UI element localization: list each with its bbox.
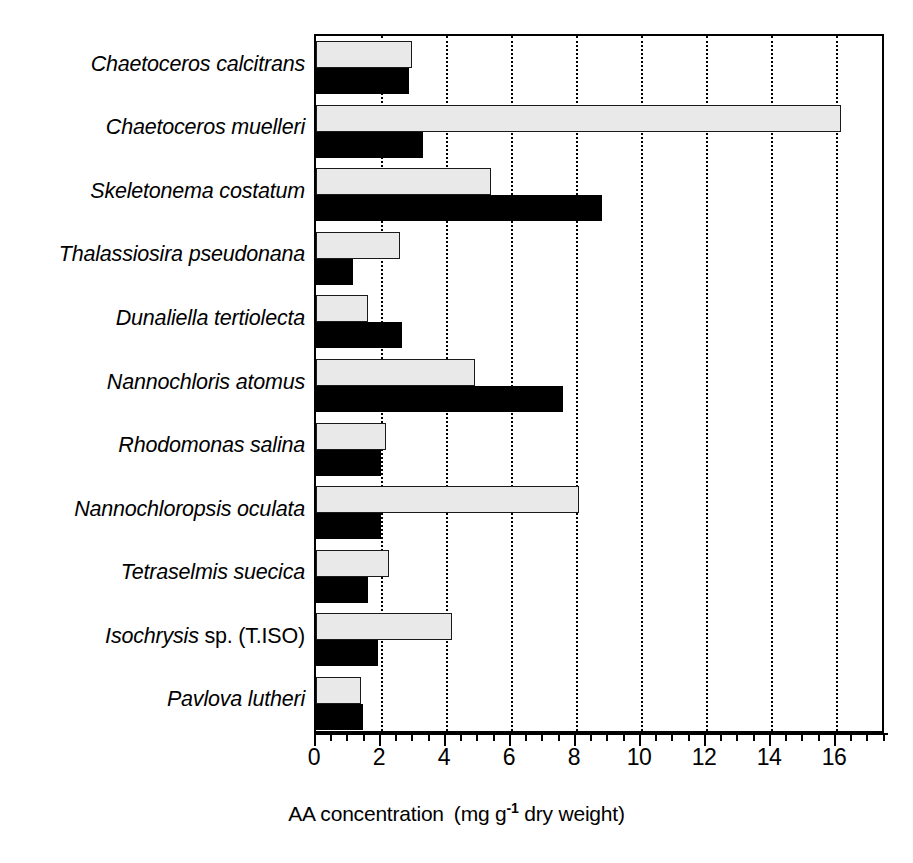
x-tick-label: 16 xyxy=(804,744,864,771)
bar-black xyxy=(316,68,409,94)
category-label: Rhodomonas salina xyxy=(0,433,305,458)
x-tick-minor xyxy=(736,735,738,741)
bar-black xyxy=(316,640,378,666)
category-label: Pavlova lutheri xyxy=(0,687,305,712)
category-label: Chaetoceros muelleri xyxy=(0,115,305,140)
bar-group xyxy=(316,168,882,221)
category-label: Chaetoceros calcitrans xyxy=(0,52,305,77)
bar-gray xyxy=(316,105,841,132)
x-tick-minor xyxy=(688,735,690,741)
x-tick-label: 12 xyxy=(674,744,734,771)
category-label-genus-species: Pavlova lutheri xyxy=(167,687,305,711)
axis-title-exponent: -1 xyxy=(507,800,519,816)
bar-group xyxy=(316,423,882,476)
bar-gray xyxy=(316,486,579,513)
category-label-qualifier: sp. (T.ISO) xyxy=(199,624,305,648)
x-tick-minor xyxy=(395,735,397,741)
bar-black xyxy=(316,577,368,603)
axis-title-main: AA concentration xyxy=(288,802,444,825)
bar-group xyxy=(316,295,882,348)
category-label-genus-species: Isochrysis xyxy=(105,624,199,648)
x-tick-minor xyxy=(363,735,365,741)
category-label: Isochrysis sp. (T.ISO) xyxy=(0,624,305,649)
axis-title-paren-open: (mg g xyxy=(454,802,507,825)
bar-gray xyxy=(316,168,491,195)
category-label: Nannochloris atomus xyxy=(0,370,305,395)
x-tick-minor xyxy=(428,735,430,741)
category-label-genus-species: Tetraselmis suecica xyxy=(121,560,305,584)
x-tick-minor xyxy=(411,735,413,741)
bar-gray xyxy=(316,232,400,259)
x-tick-label: 8 xyxy=(544,744,604,771)
category-label: Tetraselmis suecica xyxy=(0,560,305,585)
x-tick-minor xyxy=(883,735,885,741)
bar-black xyxy=(316,322,402,348)
x-tick-label: 2 xyxy=(349,744,409,771)
x-tick-label: 14 xyxy=(739,744,799,771)
bar-black xyxy=(316,132,423,158)
category-label-genus-species: Nannochloropsis oculata xyxy=(74,497,305,521)
bar-black xyxy=(316,704,363,730)
x-tick-minor xyxy=(623,735,625,741)
bar-gray xyxy=(316,359,475,386)
plot-inner xyxy=(316,36,882,731)
bar-group xyxy=(316,105,882,158)
x-tick-minor xyxy=(818,735,820,741)
x-tick-label: 6 xyxy=(479,744,539,771)
x-tick-minor xyxy=(785,735,787,741)
x-tick-minor xyxy=(590,735,592,741)
bar-black xyxy=(316,259,353,285)
x-tick-minor xyxy=(850,735,852,741)
bar-group xyxy=(316,232,882,285)
category-label-genus-species: Rhodomonas salina xyxy=(118,433,305,457)
category-label: Skeletonema costatum xyxy=(0,179,305,204)
chart-figure: Chaetoceros calcitransChaetoceros muelle… xyxy=(0,0,913,863)
category-label-genus-species: Chaetoceros muelleri xyxy=(106,115,305,139)
x-tick-minor xyxy=(493,735,495,741)
x-tick-minor xyxy=(606,735,608,741)
x-tick-minor xyxy=(801,735,803,741)
x-tick-minor xyxy=(525,735,527,741)
bar-black xyxy=(316,386,563,412)
bar-group xyxy=(316,359,882,412)
category-label: Dunaliella tertiolecta xyxy=(0,306,305,331)
x-axis xyxy=(314,733,888,735)
x-tick-minor xyxy=(720,735,722,741)
bar-black xyxy=(316,450,381,476)
bar-gray xyxy=(316,41,412,68)
category-label-genus-species: Skeletonema costatum xyxy=(90,179,305,203)
x-tick-minor xyxy=(753,735,755,741)
bar-group xyxy=(316,613,882,666)
x-tick-minor xyxy=(460,735,462,741)
x-tick-minor xyxy=(541,735,543,741)
x-tick-minor xyxy=(476,735,478,741)
x-tick-minor xyxy=(346,735,348,741)
x-tick-minor xyxy=(330,735,332,741)
bar-group xyxy=(316,41,882,94)
x-tick-minor xyxy=(558,735,560,741)
x-tick-minor xyxy=(671,735,673,741)
bar-gray xyxy=(316,613,452,640)
bar-group xyxy=(316,677,882,730)
bar-gray xyxy=(316,423,386,450)
bar-black xyxy=(316,195,602,221)
x-tick-minor xyxy=(866,735,868,741)
axis-title-paren-rest: dry weight) xyxy=(519,802,625,825)
category-label-genus-species: Dunaliella tertiolecta xyxy=(116,306,305,330)
x-tick-label: 4 xyxy=(414,744,474,771)
category-label-genus-species: Thalassiosira pseudonana xyxy=(59,242,305,266)
category-label: Nannochloropsis oculata xyxy=(0,497,305,522)
bar-group xyxy=(316,486,882,539)
x-tick-label: 10 xyxy=(609,744,669,771)
category-label-genus-species: Nannochloris atomus xyxy=(107,370,305,394)
bar-group xyxy=(316,550,882,603)
x-tick-minor xyxy=(655,735,657,741)
plot-area xyxy=(314,34,884,733)
category-label-genus-species: Chaetoceros calcitrans xyxy=(91,52,305,76)
bar-gray xyxy=(316,295,368,322)
x-tick-label: 0 xyxy=(284,744,344,771)
bar-gray xyxy=(316,550,389,577)
bar-black xyxy=(316,513,381,539)
category-label: Thalassiosira pseudonana xyxy=(0,242,305,267)
category-axis-labels: Chaetoceros calcitransChaetoceros muelle… xyxy=(0,34,305,733)
